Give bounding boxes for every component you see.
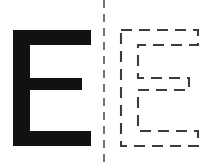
left-panel-region (0, 0, 104, 168)
right-panel-region (105, 0, 209, 168)
shape-contour-figure (0, 0, 209, 168)
figure-canvas (0, 0, 209, 168)
